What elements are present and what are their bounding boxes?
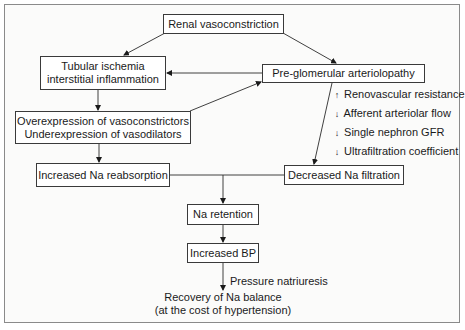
up-arrow-icon: ↑ [333,89,341,102]
down-arrow-icon: ↓ [333,127,341,140]
node-recovery: Recovery of Na balance (at the cost of h… [142,291,304,317]
node-renal-vasoconstriction: Renal vasoconstriction [163,14,284,34]
node-label: Pre-glomerular arteriolopathy [272,67,414,80]
effect-item: ↓ Afferent arteriolar flow [333,107,451,121]
edge-label-pressure-natriuresis: Pressure natriuresis [230,275,328,288]
node-label-line-2: (at the cost of hypertension) [142,304,304,317]
edge-label-text: Pressure natriuresis [230,275,328,287]
node-tubular-ischemia: Tubular ischemia interstitial inflammati… [40,56,166,90]
effect-item: ↓ Ultrafiltration coefficient [333,145,458,159]
down-arrow-icon: ↓ [333,146,341,159]
effect-label: Ultrafiltration coefficient [344,145,458,157]
node-label: Decreased Na filtration [288,169,400,182]
effect-item: ↓ Single nephron GFR [333,126,444,140]
effect-label: Single nephron GFR [344,126,444,138]
down-arrow-icon: ↓ [333,108,341,121]
node-preglomerular-arteriolopathy: Pre-glomerular arteriolopathy [262,64,425,83]
node-na-retention: Na retention [187,204,259,225]
node-overexpression: Overexpression of vasoconstrictors Under… [15,111,191,144]
node-label: Increased Na reabsorption [38,169,168,182]
node-increased-bp: Increased BP [187,243,259,263]
effect-label: Renovascular resistance [344,88,464,100]
effect-label: Afferent arteriolar flow [343,107,450,119]
node-label-line-1: Recovery of Na balance [142,291,304,304]
node-label-line-1: Tubular ischemia [61,60,144,73]
effect-item: ↑ Renovascular resistance [333,88,465,102]
node-label-line-2: interstitial inflammation [47,73,159,86]
node-label: Renal vasoconstriction [168,18,279,31]
node-increased-na-reabsorption: Increased Na reabsorption [36,163,170,187]
node-label: Na retention [193,208,253,221]
node-decreased-na-filtration: Decreased Na filtration [284,165,404,185]
node-label-line-1: Overexpression of vasoconstrictors [17,115,189,128]
node-label: Increased BP [190,247,256,260]
node-label-line-2: Underexpression of vasodilators [24,128,181,141]
